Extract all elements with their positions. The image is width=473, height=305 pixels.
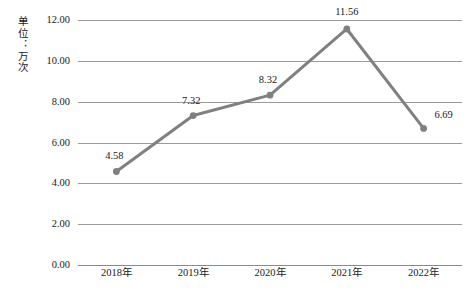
line-chart: 单位：万次 0.002.004.006.008.0010.0012.00 201… <box>0 0 473 305</box>
data-point-value-label: 11.56 <box>335 7 358 18</box>
y-axis-tick-label: 2.00 <box>12 219 70 230</box>
y-axis-tick-label: 4.00 <box>12 178 70 189</box>
x-axis-line <box>78 265 462 266</box>
y-axis-tick-labels: 0.002.004.006.008.0010.0012.00 <box>0 20 473 265</box>
y-axis-tick-label: 0.00 <box>12 260 70 271</box>
data-point-value-label: 4.58 <box>105 151 123 162</box>
x-axis-tick-label: 2022年 <box>379 268 469 279</box>
y-axis-tick-label: 10.00 <box>12 56 70 67</box>
data-point-value-label: 6.69 <box>434 110 452 121</box>
y-axis-tick-label: 12.00 <box>12 15 70 26</box>
data-point-value-label: 7.32 <box>182 96 200 107</box>
data-point-value-label: 8.32 <box>259 75 277 86</box>
y-axis-tick-label: 8.00 <box>12 96 70 107</box>
y-axis-tick-label: 6.00 <box>12 137 70 148</box>
x-axis-tick-labels: 2018年2019年2020年2021年2022年 <box>78 268 462 290</box>
